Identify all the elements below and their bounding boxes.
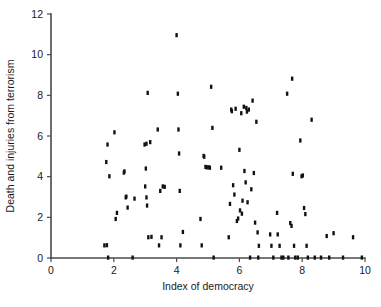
data-point-marker [175, 33, 177, 37]
data-point-marker [163, 185, 165, 189]
data-point-marker [304, 212, 306, 216]
data-point-marker [178, 151, 180, 155]
data-point-marker [294, 255, 296, 259]
data-point-marker [307, 255, 309, 259]
data-point-marker [105, 160, 107, 164]
data-point-marker [290, 224, 292, 228]
data-point-marker [253, 171, 255, 175]
data-point-marker [103, 243, 105, 247]
data-point-marker [244, 180, 246, 184]
data-point-marker [145, 166, 147, 170]
data-point-marker [320, 255, 322, 259]
scatter-plot-svg: 024681012 0246810 Index of democracy Dea… [0, 0, 381, 307]
data-point-marker [238, 148, 240, 152]
data-point-marker [332, 231, 334, 235]
data-point-marker [270, 244, 272, 248]
data-point-marker [250, 187, 252, 191]
x-tick-label: 4 [174, 264, 180, 276]
data-point-marker [177, 127, 179, 131]
data-point-marker [272, 255, 274, 259]
data-point-marker [302, 173, 304, 177]
data-point-marker [297, 255, 299, 259]
data-point-marker [220, 166, 222, 170]
data-point-marker [325, 234, 327, 238]
data-point-marker [106, 243, 108, 247]
x-tick-label: 10 [359, 264, 371, 276]
data-point-marker [241, 199, 243, 203]
data-point-marker [147, 91, 149, 95]
data-point-marker [258, 244, 260, 248]
data-point-marker [147, 235, 149, 239]
data-point-marker [276, 211, 278, 215]
x-tick-label: 6 [236, 264, 242, 276]
y-tick-label: 10 [31, 48, 43, 60]
y-tick-label: 2 [37, 211, 43, 223]
data-point-marker [277, 232, 279, 236]
data-point-marker [145, 142, 147, 146]
data-point-marker [146, 203, 148, 207]
y-tick-label: 6 [37, 130, 43, 142]
data-point-marker [255, 120, 257, 124]
data-point-marker [287, 255, 289, 259]
data-point-marker [243, 105, 245, 109]
data-point-marker [160, 235, 162, 239]
data-point-marker [251, 99, 253, 103]
data-point-marker [231, 109, 233, 113]
data-point-marker [144, 184, 146, 188]
data-point-marker [158, 243, 160, 247]
data-point-marker [145, 195, 147, 199]
y-axis-ticks: 024681012 [31, 8, 51, 264]
data-point-marker [157, 127, 159, 131]
data-point-marker [254, 221, 256, 225]
x-axis-ticks: 0246810 [48, 258, 371, 276]
data-point-marker [282, 255, 284, 259]
data-point-marker [201, 243, 203, 247]
data-point-marker [314, 255, 316, 259]
data-point-marker [210, 85, 212, 89]
data-point-marker [310, 118, 312, 122]
data-point-marker [116, 211, 118, 215]
data-point-marker [243, 169, 245, 173]
data-point-marker [229, 202, 231, 206]
y-tick-label: 8 [37, 89, 43, 101]
data-point-marker [211, 126, 213, 130]
data-point-marker [245, 106, 247, 110]
data-point-marker [149, 140, 151, 144]
data-point-marker [241, 212, 243, 216]
data-point-marker [248, 107, 250, 111]
data-point-marker [278, 244, 280, 248]
data-point-marker [292, 172, 294, 176]
data-point-marker [237, 216, 239, 220]
data-point-marker [234, 107, 236, 111]
data-point-marker [159, 189, 161, 193]
data-point-marker [256, 230, 258, 234]
data-point-marker [305, 244, 307, 248]
data-point-marker [179, 189, 181, 193]
x-tick-label: 0 [48, 264, 54, 276]
data-point-marker [286, 92, 288, 96]
data-point-marker [106, 142, 108, 146]
data-point-marker [291, 77, 293, 81]
y-tick-label: 0 [37, 252, 43, 264]
data-point-marker [126, 205, 128, 209]
x-tick-label: 8 [299, 264, 305, 276]
data-point-marker [293, 244, 295, 248]
data-point-marker [303, 206, 305, 210]
data-point-marker [123, 169, 125, 173]
data-point-marker [246, 200, 248, 204]
data-point-marker [249, 255, 251, 259]
data-point-marker [209, 166, 211, 170]
data-point-marker [107, 255, 109, 259]
plot-axes [51, 14, 365, 258]
data-point-marker [131, 255, 133, 259]
data-points-layer [103, 33, 363, 260]
y-axis-title: Death and injuries from terrorism [4, 59, 16, 212]
data-point-marker [361, 255, 363, 259]
scatter-chart-figure: 024681012 0246810 Index of democracy Dea… [0, 0, 381, 307]
y-tick-label: 4 [37, 170, 43, 182]
x-axis-title: Index of democracy [162, 280, 254, 292]
data-point-marker [108, 174, 110, 178]
data-point-marker [342, 255, 344, 259]
data-point-marker [125, 194, 127, 198]
data-point-marker [182, 230, 184, 234]
